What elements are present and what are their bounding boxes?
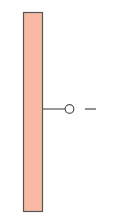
electrode-rod (24, 13, 43, 212)
electrode-diagram (0, 0, 117, 224)
terminal-node-icon (65, 105, 74, 114)
